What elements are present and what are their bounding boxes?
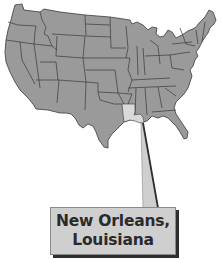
callout-city: New Orleans, (56, 212, 170, 231)
location-callout: New Orleans, Louisiana (50, 207, 176, 255)
callout-state: Louisiana (72, 231, 154, 250)
